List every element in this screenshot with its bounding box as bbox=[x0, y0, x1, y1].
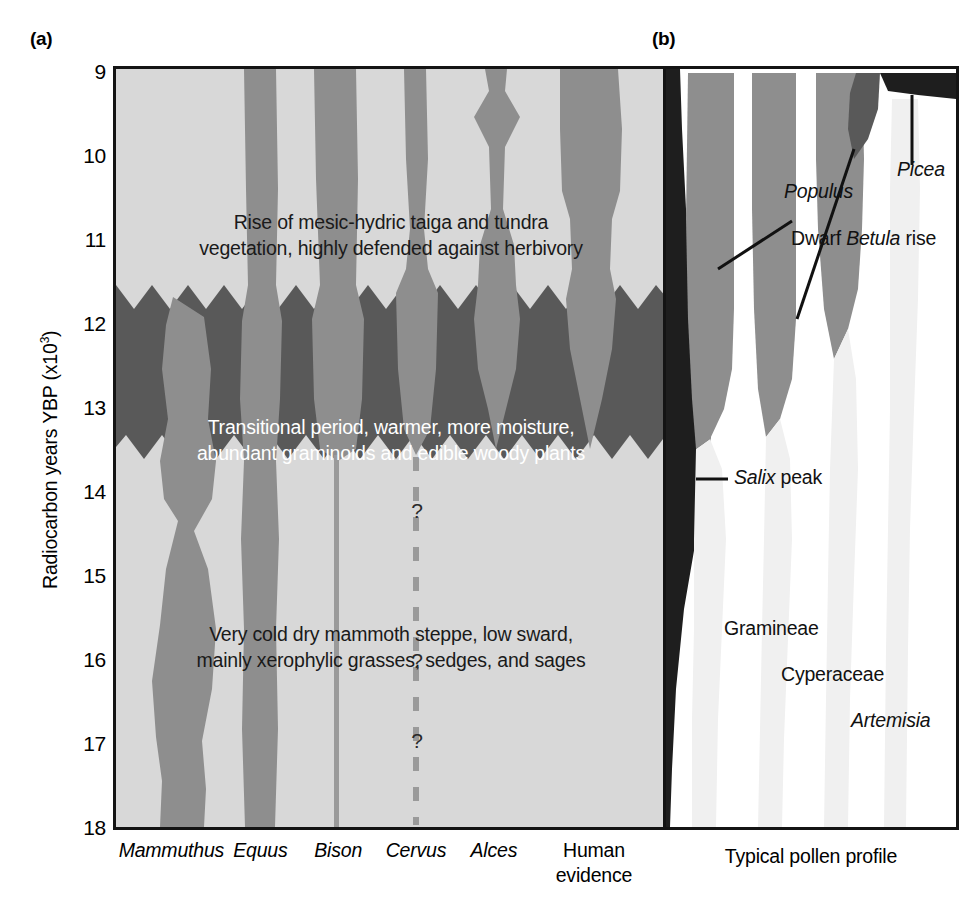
y-tick-18: 18 bbox=[46, 817, 106, 838]
bison-thin-line bbox=[334, 455, 339, 827]
label-salix-genus: Salix bbox=[734, 466, 775, 488]
label-dwarf-betula-rise: Dwarf Betula rise bbox=[791, 227, 936, 250]
taxon-label-cervus: Cervus bbox=[386, 838, 447, 863]
taxon-label-line2: evidence bbox=[556, 863, 632, 888]
taxon-label-line1: Cervus bbox=[386, 839, 447, 861]
panel-a-plot-box: Rise of mesic-hydric taiga and tundra ve… bbox=[113, 66, 669, 830]
panel-a-taxa-labels: MammuthusEquusBisonCervusAlcesHumanevide… bbox=[113, 838, 669, 918]
taxon-label-bison: Bison bbox=[314, 838, 362, 863]
label-picea: Picea bbox=[897, 158, 945, 181]
label-betula-pre: Dwarf bbox=[791, 227, 846, 249]
taxon-label-line1: Bison bbox=[314, 839, 362, 861]
y-axis-tick-labels: 9101112131415161718 bbox=[43, 0, 106, 924]
taxon-label-line1: Equus bbox=[233, 839, 287, 861]
silhouette-bison bbox=[312, 69, 364, 461]
label-artemisia: Artemisia bbox=[851, 709, 930, 732]
label-betula-post: rise bbox=[900, 227, 936, 249]
label-gramineae: Gramineae bbox=[724, 617, 819, 640]
y-tick-15: 15 bbox=[46, 565, 106, 586]
taxon-label-equus: Equus bbox=[233, 838, 287, 863]
taxon-label-mammuthus: Mammuthus bbox=[119, 838, 224, 863]
y-tick-16: 16 bbox=[46, 649, 106, 670]
y-tick-17: 17 bbox=[46, 733, 106, 754]
panel-b-caption: Typical pollen profile bbox=[663, 845, 959, 868]
y-tick-12: 12 bbox=[46, 313, 106, 334]
taxon-label-line1: Human bbox=[563, 839, 625, 861]
y-tick-9: 9 bbox=[46, 61, 106, 82]
pollen-curve-betula bbox=[686, 73, 734, 449]
y-tick-10: 10 bbox=[46, 145, 106, 166]
pollen-curve-betula-2 bbox=[752, 73, 796, 437]
y-tick-14: 14 bbox=[46, 481, 106, 502]
label-salix-peak: Salix peak bbox=[734, 466, 822, 489]
taxon-label-human: Humanevidence bbox=[556, 838, 632, 888]
label-salix-post: peak bbox=[775, 466, 822, 488]
panel-b-letter: (b) bbox=[652, 28, 675, 50]
label-populus: Populus bbox=[784, 180, 853, 203]
taxon-label-alces: Alces bbox=[471, 838, 518, 863]
question-mark-1: ? bbox=[405, 499, 429, 523]
silhouette-equus bbox=[240, 69, 282, 827]
question-mark-3: ? bbox=[405, 729, 429, 753]
taxon-label-line1: Mammuthus bbox=[119, 839, 224, 861]
y-tick-13: 13 bbox=[46, 397, 106, 418]
label-cyperaceae: Cyperaceae bbox=[781, 663, 884, 686]
panel-b-plot-box: Populus Picea Dwarf Betula rise Salix pe… bbox=[663, 66, 959, 830]
label-betula-genus: Betula bbox=[846, 227, 900, 249]
y-tick-11: 11 bbox=[46, 229, 106, 250]
question-mark-2: ? bbox=[405, 649, 429, 673]
panel-a-silhouette-chart bbox=[116, 69, 666, 827]
taxon-label-line1: Alces bbox=[471, 839, 518, 861]
